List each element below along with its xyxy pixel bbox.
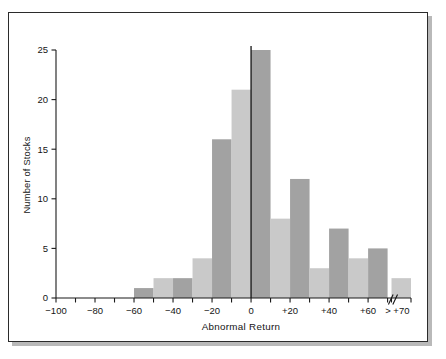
y-tick-label: 25: [37, 44, 48, 55]
histogram-bar: [329, 229, 349, 298]
histogram-bar: [232, 90, 252, 298]
abnormal-return-histogram: −100−80−60−40−200+20+40+60> +70 05101520…: [0, 0, 446, 359]
axis-break-slash: [388, 295, 393, 305]
bars-layer: [134, 50, 411, 298]
histogram-bar: [251, 50, 271, 298]
x-tick-label: +20: [282, 305, 298, 316]
y-axis-tick-labels: 0510152025: [37, 44, 48, 303]
histogram-bar: [271, 219, 291, 298]
histogram-bar: [134, 288, 154, 298]
x-axis-ticks: [56, 298, 411, 303]
histogram-bar: [310, 268, 330, 298]
x-tick-label: > +70: [385, 305, 409, 316]
histogram-bar: [193, 258, 213, 298]
histogram-bar: [212, 139, 232, 298]
x-axis-title: Abnormal Return: [202, 321, 281, 332]
histogram-figure: −100−80−60−40−200+20+40+60> +70 05101520…: [0, 0, 446, 359]
x-tick-label: −80: [87, 305, 103, 316]
x-tick-label: −100: [45, 305, 66, 316]
x-tick-label: +40: [321, 305, 337, 316]
histogram-bar: [173, 278, 193, 298]
y-axis-title: Number of Stocks: [22, 136, 32, 213]
histogram-bar: [290, 179, 310, 298]
y-axis-ticks: [52, 50, 57, 298]
histogram-bar: [349, 258, 369, 298]
x-tick-label: +60: [360, 305, 376, 316]
y-tick-label: 15: [37, 144, 48, 155]
y-tick-label: 0: [43, 292, 48, 303]
x-tick-label: −20: [204, 305, 220, 316]
y-tick-label: 20: [37, 94, 48, 105]
histogram-bar: [391, 278, 411, 298]
y-tick-label: 10: [37, 193, 48, 204]
y-tick-label: 5: [43, 243, 48, 254]
x-axis-tick-labels: −100−80−60−40−200+20+40+60> +70: [45, 305, 409, 316]
x-tick-label: −60: [126, 305, 142, 316]
histogram-bar: [368, 248, 388, 298]
histogram-bar: [154, 278, 174, 298]
x-tick-label: −40: [165, 305, 181, 316]
x-tick-label: 0: [248, 305, 253, 316]
